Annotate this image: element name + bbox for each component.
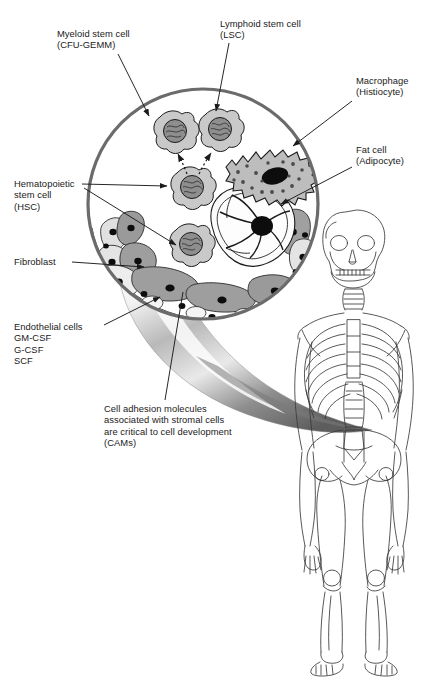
label-macrophage: Macrophage (Histiocyte) <box>356 75 409 98</box>
label-myeloid-stem-cell: Myeloid stem cell (CFU-GEMM) <box>57 28 130 51</box>
label-endothelial-cells: Endothelial cells GM-CSF G-CSF SCF <box>14 321 83 367</box>
leader-myeloid <box>118 54 149 116</box>
label-hematopoietic-stem-cell: Hematopoietic stem cell (HSC) <box>14 178 75 212</box>
label-lymphoid-stem-cell: Lymphoid stem cell (LSC) <box>220 18 301 41</box>
label-cell-adhesion-molecules: Cell adhesion molecules associated with … <box>104 403 232 449</box>
label-fat-cell: Fat cell (Adipocyte) <box>356 144 404 167</box>
hematopoietic-stem-cell-upper <box>171 167 216 210</box>
myeloid-stem-cell <box>154 111 199 154</box>
leader-macrophage <box>293 101 352 146</box>
human-skeleton <box>295 210 414 676</box>
hematopoietic-stem-cell-lower <box>170 224 215 267</box>
bone-marrow-circle <box>84 89 318 341</box>
bone-marrow-figure: Myeloid stem cell (CFU-GEMM) Lymphoid st… <box>0 0 431 679</box>
lymphoid-stem-cell <box>199 109 244 152</box>
label-fibroblast: Fibroblast <box>14 256 56 267</box>
